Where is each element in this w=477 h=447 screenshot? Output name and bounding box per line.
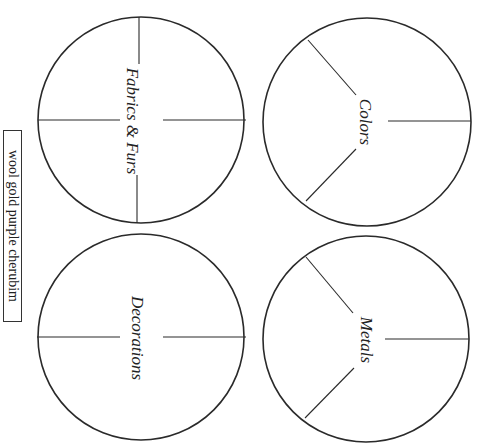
divider-line <box>308 40 356 95</box>
divider-line <box>305 368 354 418</box>
circle-label-colors: Colors <box>356 99 375 146</box>
circle-fabrics-furs: Fabrics & Furs <box>38 17 246 223</box>
divider-line <box>306 257 353 313</box>
circle-colors: Colors <box>263 18 471 226</box>
circle-label-fabrics: Fabrics & Furs <box>123 67 142 175</box>
category-circles-diagram: Fabrics & Furs Colors Decorations Metals <box>0 0 477 447</box>
divider-line <box>306 149 356 201</box>
circle-label-metals: Metals <box>357 316 376 364</box>
circle-label-decorations: Decorations <box>128 295 147 380</box>
circle-metals: Metals <box>263 236 469 442</box>
circle-decorations: Decorations <box>37 234 246 440</box>
